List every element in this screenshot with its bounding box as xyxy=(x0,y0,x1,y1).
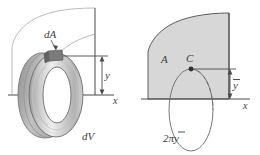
left-panel-group: dA dV y x xyxy=(8,8,118,142)
label-ybar-group: y xyxy=(232,79,240,91)
label-centroid-C: C xyxy=(186,52,194,64)
label-dV: dV xyxy=(82,130,96,142)
torus-solid xyxy=(18,53,83,138)
label-x-right: x xyxy=(242,100,248,111)
label-dA: dA xyxy=(44,28,57,40)
label-circumference: 2πy xyxy=(163,132,179,144)
left-y-arrow-down xyxy=(100,90,105,96)
label-ybar: y xyxy=(232,79,238,91)
label-x-left: x xyxy=(112,95,118,106)
figure-container: dA dV y x A xyxy=(0,0,260,155)
label-circumference-group: 2πy xyxy=(163,132,185,144)
pappus-guldinus-figure: dA dV y x A xyxy=(0,0,260,155)
label-y: y xyxy=(104,69,110,81)
label-area-A: A xyxy=(160,53,168,65)
right-panel-group: A C y x 2πy xyxy=(141,13,250,151)
left-y-arrow-up xyxy=(100,56,105,62)
centroid-point xyxy=(189,67,194,72)
